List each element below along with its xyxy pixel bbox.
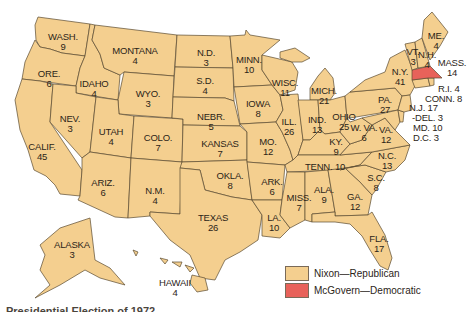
label-wva: W. VA.6	[350, 123, 377, 143]
label-nc: N.C.13	[378, 151, 396, 171]
democratic-swatch	[285, 283, 309, 298]
label-nd: N.D.3	[197, 48, 215, 68]
label-tenn: TENN. 10	[305, 162, 345, 172]
label-iowa: IOWA8	[246, 99, 270, 119]
label-sc: S.C.8	[367, 173, 385, 193]
label-ariz: ARIZ.6	[91, 178, 114, 198]
label-ny: N.Y.41	[392, 67, 408, 87]
label-dc: D.C. 3	[413, 133, 439, 143]
label-colo: COLO.7	[144, 133, 173, 153]
label-pa: PA.27	[378, 95, 392, 115]
legend-item-democratic: McGovern—Democratic	[285, 283, 421, 298]
republican-swatch	[285, 266, 309, 281]
label-ore: ORE.6	[38, 69, 60, 89]
label-miss: MISS.7	[287, 193, 312, 213]
label-la: LA.10	[267, 213, 281, 233]
label-fla: FLA.17	[369, 234, 388, 254]
map-legend: Nixon—Republican McGovern—Democratic	[285, 266, 421, 300]
label-ga: GA.12	[347, 192, 363, 212]
label-ala: ALA.9	[314, 185, 334, 205]
label-sd: S.D.4	[196, 76, 214, 96]
label-nm: N.M.4	[145, 186, 164, 206]
label-hawaii: HAWAII4	[159, 278, 191, 298]
label-nebr: NEBR.5	[197, 112, 225, 132]
label-mich: MICH.21	[311, 86, 337, 106]
label-texas: TEXAS26	[198, 213, 228, 233]
label-mass: MASS.14	[438, 58, 467, 78]
label-kansas: KANSAS7	[201, 139, 238, 159]
label-wyo: WYO.3	[136, 89, 161, 109]
label-ark: ARK.6	[261, 177, 282, 197]
map-caption: Presidential Election of 1972	[6, 302, 155, 312]
label-ill: ILL.26	[281, 117, 296, 137]
label-utah: UTAH4	[99, 127, 123, 147]
label-va: VA.12	[379, 125, 393, 145]
label-okla: OKLA.8	[217, 171, 244, 191]
legend-label-democratic: McGovern—Democratic	[314, 285, 421, 296]
label-minn: MINN.10	[236, 55, 262, 75]
label-idaho: IDAHO4	[79, 79, 108, 99]
label-nev: NEV.3	[60, 114, 81, 134]
label-alaska: ALASKA3	[54, 240, 90, 260]
label-nh: N.H.4	[418, 50, 436, 70]
label-me: ME.4	[428, 31, 444, 51]
label-ky: KY.9	[329, 137, 343, 157]
label-calif: CALIF.45	[28, 142, 55, 162]
label-mo: MO.12	[259, 137, 276, 157]
label-wash: WASH.9	[48, 32, 78, 52]
legend-label-republican: Nixon—Republican	[314, 268, 400, 279]
label-montana: MONTANA4	[112, 46, 157, 66]
label-wisc: WISC.11	[272, 78, 298, 98]
label-ind: IND.13	[308, 115, 326, 135]
legend-item-republican: Nixon—Republican	[285, 266, 421, 281]
